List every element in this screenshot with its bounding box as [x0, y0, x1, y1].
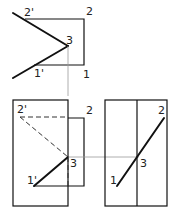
label-2-side: 2 — [158, 104, 165, 117]
front-view-plane-outline — [68, 118, 84, 186]
top-view: 2' 2 3 1' 1 — [13, 5, 93, 96]
label-3-top: 3 — [66, 34, 73, 47]
front-view-visible-line — [34, 157, 68, 186]
label-2prime-top: 2' — [24, 6, 34, 19]
side-view: 2 3 1 — [105, 100, 167, 206]
label-1prime-top: 1' — [34, 67, 44, 80]
label-1-side: 1 — [110, 174, 117, 187]
label-2-front: 2 — [86, 104, 93, 117]
label-2-top: 2 — [86, 5, 93, 18]
hidden-line-diagonal — [20, 117, 68, 157]
label-3-side: 3 — [140, 157, 147, 170]
top-view-line-upper — [13, 13, 68, 46]
label-2prime-front: 2' — [17, 103, 27, 116]
label-1prime-front: 1' — [27, 174, 37, 187]
projection-drawing: 2' 2 3 1' 1 2' 2 3 1' 2 3 1 — [0, 0, 177, 219]
label-1-top: 1 — [83, 68, 90, 81]
front-view: 2' 2 3 1' — [13, 100, 139, 206]
label-3-front: 3 — [70, 157, 77, 170]
side-view-line — [117, 118, 164, 186]
